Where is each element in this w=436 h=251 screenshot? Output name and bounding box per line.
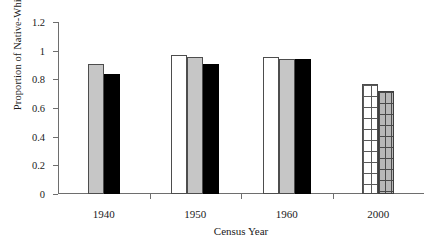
bar-gray [187, 57, 203, 194]
bar-gray [88, 64, 104, 194]
y-tick: 1 [53, 51, 58, 52]
y-tick-label: 0.8 [32, 74, 45, 85]
x-tick-label: 2000 [367, 208, 389, 220]
bar-group-1950: 1950 [171, 22, 219, 194]
y-tick: 0.4 [53, 137, 58, 138]
bar-group-1940: 1940 [88, 22, 120, 194]
y-tick-label: 1 [40, 45, 45, 56]
x-tick-label: 1940 [93, 208, 115, 220]
y-tick: 1.2 [53, 22, 58, 23]
x-tick-label: 1950 [184, 208, 206, 220]
bar-gray [279, 59, 295, 194]
x-tick-label: 1960 [276, 208, 298, 220]
y-tick-label: 1.2 [32, 17, 45, 28]
y-tick-label: 0 [40, 189, 45, 200]
bar-white [263, 57, 279, 194]
y-tick: 0.8 [53, 79, 58, 80]
bar-group-1960: 1960 [263, 22, 311, 194]
bar-white-grid [362, 84, 378, 194]
y-tick-label: 0.4 [32, 131, 45, 142]
y-tick-label: 0.6 [32, 103, 45, 114]
y-tick: 0 [53, 194, 58, 195]
y-tick: 0.2 [53, 165, 58, 166]
plot-area: 00.20.40.60.811.2 1940195019602000 [58, 22, 424, 194]
bar-gray-grid [378, 91, 394, 194]
y-axis-title: Proportion of Native-White Wage [12, 0, 23, 133]
x-tick [333, 194, 334, 199]
bar-black [203, 64, 219, 194]
bar-black [295, 59, 311, 194]
x-tick [241, 194, 242, 199]
x-tick [150, 194, 151, 199]
bar-group-2000: 2000 [362, 22, 394, 194]
x-axis-title: Census Year [58, 225, 424, 237]
bar-white [171, 55, 187, 194]
y-tick: 0.6 [53, 108, 58, 109]
y-axis-line [58, 22, 59, 194]
bar-chart: Proportion of Native-White Wage 00.20.40… [0, 0, 436, 251]
bar-black [104, 74, 120, 194]
y-tick-label: 0.2 [32, 160, 45, 171]
